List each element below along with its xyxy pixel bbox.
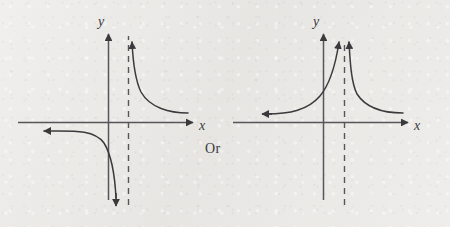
figure-canvas: y x y x Or — [0, 0, 450, 227]
left-graph-y-axis-label: y — [96, 14, 105, 29]
graph-illustration: y x y x — [0, 0, 450, 227]
left-graph-lower-branch — [44, 131, 116, 198]
right-graph: y x — [233, 14, 421, 205]
or-connector-label: Or — [205, 141, 220, 157]
right-graph-x-axis-label: x — [413, 118, 421, 133]
left-graph: y x — [18, 14, 206, 206]
right-graph-left-branch — [266, 42, 339, 114]
left-graph-x-axis-label: x — [198, 118, 206, 133]
right-graph-right-branch — [349, 42, 403, 113]
right-graph-y-axis-label: y — [311, 14, 320, 29]
left-graph-upper-branch — [132, 42, 188, 113]
